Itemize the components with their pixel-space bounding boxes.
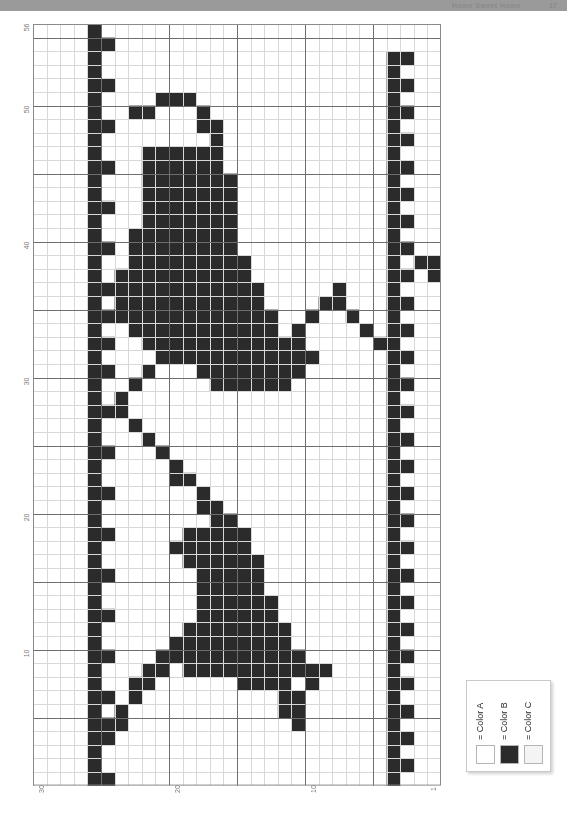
- legend-entry: = Color A: [475, 688, 497, 764]
- legend-label: = Color B: [499, 690, 518, 740]
- legend-label: = Color C: [523, 690, 542, 740]
- legend-entry: = Color C: [523, 688, 545, 764]
- legend-label: = Color A: [475, 690, 494, 740]
- axis-bottom-tick: 30: [38, 785, 45, 793]
- pattern-chart-page: Home Sweet Home 17 565040302010 3020101 …: [0, 0, 567, 817]
- axis-bottom-tick: 1: [430, 787, 437, 791]
- legend-swatch: [476, 745, 495, 764]
- axis-bottom-tick: 10: [310, 785, 317, 793]
- axis-bottom-tick: 20: [174, 785, 181, 793]
- legend-box: = Color A= Color B= Color C: [466, 680, 551, 772]
- legend-swatch: [500, 745, 519, 764]
- legend-entry: = Color B: [499, 688, 521, 764]
- legend-swatch: [524, 745, 543, 764]
